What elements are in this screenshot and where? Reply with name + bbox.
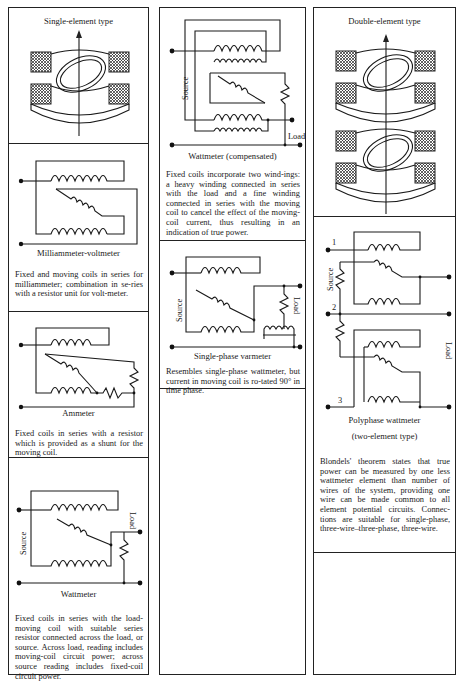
description-text: Fixed and moving coils in series for mil… xyxy=(15,270,143,299)
figure-caption: Polyphase wattmeter xyxy=(314,415,455,425)
load-label: Load xyxy=(288,132,306,141)
source-label: Source xyxy=(181,76,190,100)
figure-caption: Single-phase varmeter xyxy=(160,351,305,361)
wire-1-label: 1 xyxy=(332,238,336,247)
wire-2-label: 2 xyxy=(332,303,336,312)
panel-ammeter: Ammeter Fixed coils in series with a res… xyxy=(9,312,148,458)
column-1: Single-element type xyxy=(8,7,149,675)
panel-double-element: Double-element type xyxy=(314,8,455,217)
varmeter-circuit: Source Load xyxy=(160,241,307,341)
load-label: Load xyxy=(292,297,301,315)
panel-polyphase-wattmeter: 1 2 3 Source Load Polyphase wattmeter (t… xyxy=(314,217,455,553)
source-label: Source xyxy=(326,267,335,291)
panel-wattmeter-compensated: Source Load Wattmeter (compensated) Fixe… xyxy=(160,8,305,241)
panel-wattmeter: Source Load Wattmeter Fixed coils in ser… xyxy=(9,458,148,676)
column-3: Double-element type xyxy=(313,7,456,675)
figure-caption: Wattmeter (compensated) xyxy=(160,151,305,161)
load-label: Load xyxy=(128,512,137,530)
source-label: Source xyxy=(175,298,184,322)
panel-empty xyxy=(160,389,305,676)
column-2: Source Load Wattmeter (compensated) Fixe… xyxy=(159,7,306,675)
panel-single-element: Single-element type xyxy=(9,8,148,144)
description-text: Blondels' theorem states that true power… xyxy=(320,457,450,534)
figure-caption: Wattmeter xyxy=(9,589,148,599)
description-text: Fixed coils in series with the load-movi… xyxy=(15,614,143,681)
double-element-movement-illustration xyxy=(314,8,457,217)
panel-empty xyxy=(314,553,455,676)
panel-single-phase-varmeter: Source Load Single-phase varmeter Resemb… xyxy=(160,241,305,389)
load-label: Load xyxy=(444,342,453,360)
figure-caption: Ammeter xyxy=(9,408,148,418)
source-label: Source xyxy=(19,531,28,555)
figure-caption: Milliammeter-voltmeter xyxy=(9,248,148,258)
figure-subcaption: (two-element type) xyxy=(314,431,455,441)
wattmeter-circuit: Source Load xyxy=(9,458,150,588)
panel-milliammeter-voltmeter: Milliammeter-voltmeter Fixed and moving … xyxy=(9,144,148,312)
description-text: Fixed coils incorporate two wind-ings: a… xyxy=(166,170,300,237)
description-text: Fixed coils in series with a resistor wh… xyxy=(15,429,143,458)
milliammeter-voltmeter-circuit xyxy=(9,144,150,254)
polyphase-wattmeter-circuit: 1 2 3 Source Load xyxy=(314,217,457,417)
ammeter-circuit xyxy=(9,312,150,408)
compensated-wattmeter-circuit: Source Load xyxy=(160,8,307,153)
wire-3-label: 3 xyxy=(338,396,342,405)
single-element-movement-illustration xyxy=(9,8,150,144)
